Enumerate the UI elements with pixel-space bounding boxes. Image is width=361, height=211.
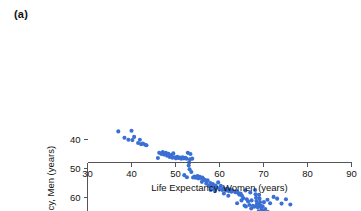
data-point — [184, 157, 188, 161]
data-point — [156, 156, 160, 160]
data-point — [250, 198, 254, 202]
data-point — [189, 170, 193, 174]
data-point — [268, 201, 272, 205]
data-point — [195, 174, 199, 178]
data-point — [138, 138, 142, 142]
data-point — [235, 201, 239, 205]
data-point — [249, 206, 253, 210]
x-axis-title: Life Expectancy, Women (years) — [151, 182, 287, 193]
data-point — [257, 197, 261, 201]
data-point — [258, 200, 262, 204]
y-tick-label: 50 — [70, 163, 81, 174]
data-point — [284, 197, 288, 201]
data-point — [190, 157, 194, 161]
x-tick-label: 40 — [126, 168, 137, 179]
data-point — [275, 197, 279, 201]
x-tick-label: 50 — [170, 168, 181, 179]
data-point — [188, 152, 192, 156]
data-point — [129, 129, 133, 133]
data-point — [116, 129, 120, 133]
data-point — [288, 202, 292, 206]
x-tick-label: 80 — [302, 168, 313, 179]
data-point — [122, 136, 126, 140]
data-point — [254, 192, 258, 196]
y-tick-label: 40 — [70, 134, 81, 145]
data-point — [244, 204, 248, 208]
data-point — [279, 202, 283, 206]
x-tick-label: 60 — [214, 168, 225, 179]
x-tick-label: 70 — [258, 168, 269, 179]
x-tick-label: 90 — [346, 168, 357, 179]
data-point — [185, 175, 189, 179]
data-point — [272, 195, 276, 199]
y-tick-label: 60 — [70, 192, 81, 203]
y-axis-title: Life Expectancy, Men (years) — [45, 146, 56, 211]
data-point — [132, 135, 136, 139]
data-point — [171, 151, 175, 155]
data-point — [247, 203, 251, 207]
data-point — [239, 198, 243, 202]
axis-labels-layer: 304050607080904050607080Life Expectancy,… — [45, 134, 357, 211]
data-point — [144, 143, 148, 147]
data-point — [265, 198, 269, 202]
data-point — [257, 193, 261, 197]
data-point — [126, 138, 130, 142]
figure-panel: (a) 304050607080904050607080Life Expecta… — [0, 0, 361, 211]
data-point — [262, 200, 266, 204]
data-point — [226, 194, 230, 198]
scatter-plot: 304050607080904050607080Life Expectancy,… — [0, 0, 361, 211]
x-tick-label: 30 — [82, 168, 93, 179]
